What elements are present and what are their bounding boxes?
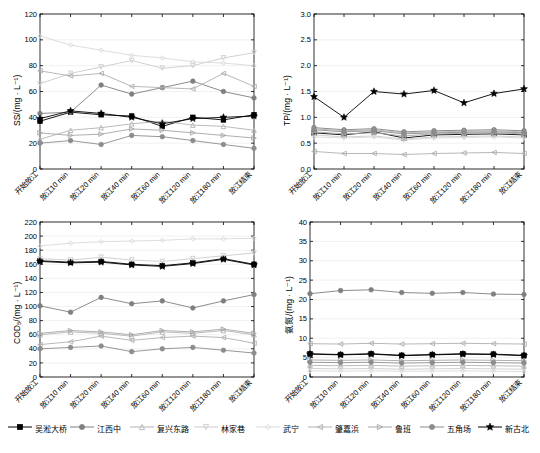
diamond-icon [256, 422, 280, 432]
svg-text:40: 40 [29, 344, 37, 353]
svg-text:放江20 min: 放江20 min [68, 169, 101, 202]
svg-text:30: 30 [299, 256, 307, 265]
svg-text:1.5: 1.5 [301, 87, 311, 96]
legend-item-1: 江西中 [70, 422, 121, 434]
figure-root: 020406080100120开始放江放江10 min放江20 min放江40 … [0, 0, 540, 453]
svg-text:200: 200 [24, 232, 37, 241]
svg-text:220: 220 [24, 218, 37, 227]
chart-panel-tp: 0.00.51.01.52.02.53.0开始放江放江10 min放江20 mi… [272, 4, 538, 204]
svg-text:100: 100 [24, 302, 37, 311]
svg-text:120: 120 [24, 288, 37, 297]
circle-filled-icon [70, 422, 94, 432]
y-axis-title: TP/(mg · L⁻¹) [282, 75, 292, 126]
svg-text:140: 140 [24, 274, 37, 283]
triangle-right-icon [368, 422, 392, 432]
svg-text:放江40 min: 放江40 min [371, 169, 404, 202]
svg-text:放江10 min: 放江10 min [311, 169, 344, 202]
legend-label: 五角场 [447, 425, 471, 434]
svg-text:放江180 min: 放江180 min [187, 377, 223, 413]
legend-label: 鲁班 [395, 425, 411, 434]
svg-text:160: 160 [24, 260, 37, 269]
legend-label: 肇嘉浜 [335, 425, 359, 434]
svg-text:60: 60 [29, 87, 37, 96]
svg-text:2.0: 2.0 [301, 61, 311, 70]
y-axis-title: COD₅/(mg · L⁻¹) [12, 281, 22, 343]
svg-text:放江结束: 放江结束 [227, 169, 255, 197]
figure-legend: 吴淞大桥江西中复兴东路林家巷武宁肇嘉浜鲁班五角场新古北 [8, 418, 532, 440]
svg-text:20: 20 [299, 295, 307, 304]
svg-text:放江40 min: 放江40 min [368, 377, 401, 410]
plot-area-3: 0510152025303540开始放江放江10 min放江20 min放江40… [272, 212, 538, 414]
svg-text:25: 25 [299, 276, 307, 285]
square-filled-icon [8, 422, 32, 432]
svg-text:10: 10 [299, 334, 307, 343]
svg-text:放江40 min: 放江40 min [98, 377, 131, 410]
svg-text:35: 35 [299, 237, 307, 246]
chart-panel-ss: 020406080100120开始放江放江10 min放江20 min放江40 … [2, 4, 268, 204]
triangle-down-icon [194, 422, 218, 432]
svg-text:放江120 min: 放江120 min [156, 377, 192, 413]
svg-text:放江20 min: 放江20 min [68, 377, 101, 410]
svg-text:80: 80 [29, 316, 37, 325]
legend-item-7: 五角场 [420, 422, 471, 434]
svg-text:3.0: 3.0 [301, 10, 311, 19]
legend-item-8: 新古北 [478, 422, 529, 434]
chart-panel-nh3: 0510152025303540开始放江放江10 min放江20 min放江40… [272, 212, 538, 414]
plot-area-2: 020406080100120140160180200220开始放江放江10 m… [2, 212, 268, 414]
svg-text:40: 40 [29, 113, 37, 122]
svg-text:放江40 min: 放江40 min [98, 169, 131, 202]
svg-text:80: 80 [29, 61, 37, 70]
svg-text:放江10 min: 放江10 min [37, 169, 70, 202]
svg-text:放江180 min: 放江180 min [187, 169, 223, 204]
svg-text:40: 40 [299, 218, 307, 227]
legend-item-0: 吴淞大桥 [8, 422, 67, 434]
svg-text:放江120 min: 放江120 min [426, 377, 462, 413]
svg-text:放江60 min: 放江60 min [129, 169, 162, 202]
legend-label: 复兴东路 [157, 425, 189, 434]
svg-text:20: 20 [29, 139, 37, 148]
chart-panel-cod: 020406080100120140160180200220开始放江放江10 m… [2, 212, 268, 414]
legend-label: 吴淞大桥 [35, 425, 67, 434]
svg-text:0.5: 0.5 [301, 139, 311, 148]
svg-text:放江20 min: 放江20 min [341, 169, 374, 202]
legend-label: 林家巷 [221, 425, 245, 434]
svg-text:放江结束: 放江结束 [497, 169, 525, 197]
svg-text:100: 100 [24, 35, 37, 44]
plot-area-1: 0.00.51.01.52.02.53.0开始放江放江10 min放江20 mi… [272, 4, 538, 204]
svg-text:180: 180 [24, 246, 37, 255]
legend-item-2: 复兴东路 [130, 422, 189, 434]
svg-text:放江20 min: 放江20 min [338, 377, 371, 410]
svg-text:放江180 min: 放江180 min [458, 169, 494, 204]
svg-text:20: 20 [29, 359, 37, 368]
svg-text:5: 5 [303, 353, 307, 362]
legend-item-3: 林家巷 [194, 422, 245, 434]
svg-text:放江180 min: 放江180 min [457, 377, 493, 413]
svg-text:60: 60 [29, 330, 37, 339]
y-axis-title: 氨氮/(mg · L⁻¹) [282, 276, 294, 334]
svg-text:放江60 min: 放江60 min [399, 377, 432, 410]
plot-area-0: 020406080100120开始放江放江10 min放江20 min放江40 … [2, 4, 268, 204]
svg-text:2.5: 2.5 [301, 35, 311, 44]
star-filled-icon [478, 422, 502, 432]
legend-item-4: 武宁 [256, 422, 299, 434]
svg-text:放江结束: 放江结束 [227, 377, 255, 405]
triangle-left-icon [308, 422, 332, 432]
legend-item-6: 鲁班 [368, 422, 411, 434]
legend-label: 武宁 [283, 425, 299, 434]
y-axis-title: SS/(mg · L⁻¹) [12, 74, 22, 125]
legend-label: 江西中 [97, 425, 121, 434]
svg-text:放江60 min: 放江60 min [129, 377, 162, 410]
svg-text:1.0: 1.0 [301, 113, 311, 122]
svg-text:放江结束: 放江结束 [497, 377, 525, 405]
svg-text:120: 120 [24, 10, 37, 19]
triangle-up-icon [130, 422, 154, 432]
svg-text:放江10 min: 放江10 min [37, 377, 70, 410]
legend-item-5: 肇嘉浜 [308, 422, 359, 434]
circle-filled-icon [420, 422, 444, 432]
svg-text:放江10 min: 放江10 min [307, 377, 340, 410]
legend-label: 新古北 [505, 425, 529, 434]
svg-text:15: 15 [299, 314, 307, 323]
